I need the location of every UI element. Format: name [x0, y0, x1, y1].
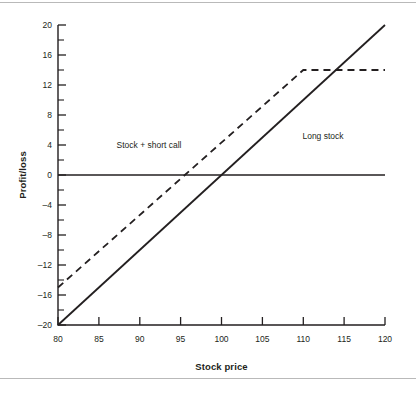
x-tick-label: 105 [255, 334, 269, 344]
y-tick-label: –20 [38, 320, 52, 330]
y-tick-label: –8 [43, 230, 53, 240]
y-tick-label: 16 [43, 50, 53, 60]
x-tick-label: 120 [378, 334, 392, 344]
y-tick-label: 4 [47, 140, 52, 150]
annotation-stock-plus-short-call: Stock + short call [117, 140, 182, 150]
y-axis-title: Profit/loss [17, 151, 28, 199]
x-tick-label: 110 [297, 334, 311, 344]
x-axis-title: Stock price [195, 361, 247, 372]
payoff-chart-figure: 20 16 12 8 4 0 –4 –8 –12 –16 –20 80 85 9… [0, 0, 416, 394]
x-tick-labels: 80 85 90 95 100 105 110 115 120 [53, 334, 392, 344]
series-stock-plus-short-call [58, 70, 385, 288]
chart-canvas: 20 16 12 8 4 0 –4 –8 –12 –16 –20 80 85 9… [0, 0, 416, 394]
y-tick-labels: 20 16 12 8 4 0 –4 –8 –12 –16 –20 [38, 20, 52, 330]
y-tick-label: 8 [47, 110, 52, 120]
x-tick-label: 90 [135, 334, 145, 344]
x-tick-label: 115 [337, 334, 351, 344]
y-tick-label: –16 [38, 290, 52, 300]
x-tick-label: 100 [214, 334, 228, 344]
annotation-long-stock: Long stock [302, 131, 344, 141]
x-axis-ticks [58, 317, 385, 325]
x-tick-label: 80 [53, 334, 63, 344]
x-tick-label: 85 [94, 334, 104, 344]
y-tick-label: –4 [43, 200, 53, 210]
y-tick-label: 12 [43, 80, 53, 90]
y-tick-label: –12 [38, 260, 52, 270]
y-tick-label: 0 [47, 170, 52, 180]
y-tick-label: 20 [43, 20, 53, 30]
x-tick-label: 95 [176, 334, 186, 344]
